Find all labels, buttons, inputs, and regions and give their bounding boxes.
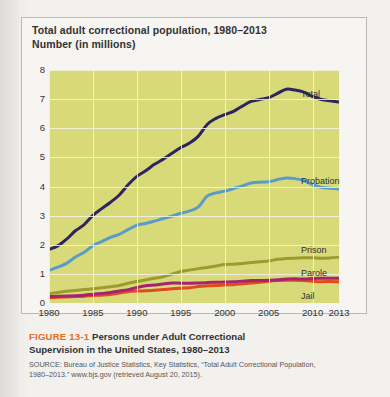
- y-axis-tick-label: 3: [23, 210, 45, 221]
- plot-canvas: [49, 70, 339, 303]
- y-axis-tick-label: 1: [23, 268, 45, 279]
- chart-title: Total adult correctional population, 198…: [32, 24, 352, 51]
- x-axis-tick-label: 1980: [38, 307, 59, 318]
- y-axis-tick-label: 5: [23, 151, 45, 162]
- y-axis-tick-label: 7: [23, 93, 45, 104]
- series-label-prison: Prison: [301, 245, 327, 255]
- x-axis-tick-label: 2005: [258, 307, 279, 318]
- gridline-vertical: [225, 70, 226, 303]
- x-axis-tick-label: 2013: [328, 307, 349, 318]
- y-axis-tick-label: 2: [23, 239, 45, 250]
- y-axis-tick-label: 4: [23, 181, 45, 192]
- chart-plot-area: 012345678 198019851990199520002005201020…: [21, 62, 367, 318]
- caption-line-2: Supervision in the United States, 1980–2…: [29, 343, 359, 356]
- series-label-parole: Parole: [301, 268, 327, 278]
- gridline-vertical: [181, 70, 182, 303]
- x-axis-tick-label: 1985: [82, 307, 103, 318]
- gridline-vertical: [137, 70, 138, 303]
- gridline-vertical: [339, 70, 340, 303]
- page-background: Total adult correctional population, 198…: [0, 0, 390, 397]
- figure-source: SOURCE: Bureau of Justice Statistics, Ke…: [29, 360, 351, 379]
- y-axis-tick-labels: 012345678: [21, 70, 45, 303]
- figure-caption: FIGURE 13-1 Persons under Adult Correcti…: [29, 330, 359, 356]
- series-label-jail: Jail: [301, 291, 315, 301]
- y-axis-tick-label: 6: [23, 122, 45, 133]
- gridline-vertical: [49, 70, 50, 303]
- gridline-horizontal: [49, 303, 339, 304]
- x-axis-tick-label: 1995: [170, 307, 191, 318]
- gridline-vertical: [269, 70, 270, 303]
- caption-line-1: Persons under Adult Correctional: [92, 331, 245, 342]
- chart-title-line-1: Total adult correctional population, 198…: [32, 24, 352, 38]
- figure-number: FIGURE 13-1: [29, 331, 89, 342]
- y-axis-tick-label: 8: [23, 64, 45, 75]
- chart-title-line-2: Number (in millions): [32, 38, 352, 52]
- x-axis-tick-labels: 19801985199019952000200520102013: [49, 307, 339, 321]
- x-axis-tick-label: 2000: [214, 307, 235, 318]
- series-label-total: Total: [301, 89, 320, 99]
- x-axis-tick-label: 2010: [302, 307, 323, 318]
- source-line-1: SOURCE: Bureau of Justice Statistics, Ke…: [29, 360, 351, 370]
- series-label-probation: Probation: [301, 176, 340, 186]
- x-axis-tick-label: 1990: [126, 307, 147, 318]
- gridline-vertical: [93, 70, 94, 303]
- source-line-2: 1980–2013.” www.bjs.gov (retrieved Augus…: [29, 370, 351, 380]
